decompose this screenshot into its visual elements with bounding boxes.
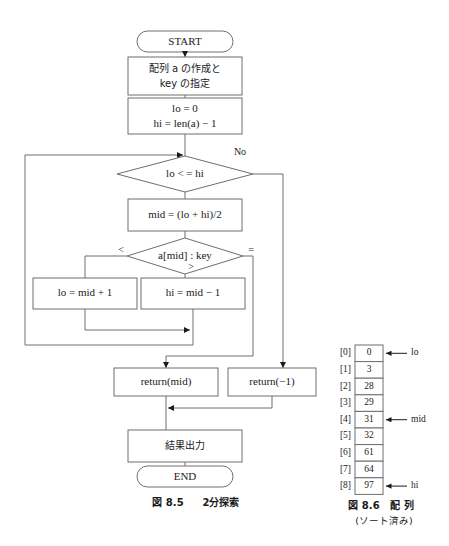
- branch-equal-label: =: [248, 244, 254, 255]
- branch-greater-label: >: [188, 261, 194, 272]
- array-cell-value: 61: [364, 447, 374, 457]
- bounds-line-2: hi = len(a) − 1: [153, 117, 216, 130]
- return-notfound-label: return(−1): [249, 375, 295, 388]
- array-cell-value: 64: [364, 464, 374, 474]
- flowchart-caption-title: 2分探索: [203, 496, 240, 508]
- array-cell-value: 3: [367, 364, 372, 374]
- array-cell-value: 28: [364, 381, 374, 391]
- array-table: [0]0[1]3[2]28[3]29[4]31[5]32[6]61[7]64[8…: [340, 345, 426, 494]
- return-found-label: return(mid): [141, 375, 192, 388]
- init-line-1: 配列 a の作成と: [149, 62, 222, 74]
- connector-returns-merge: [168, 396, 272, 408]
- array-index-label: [0]: [340, 347, 351, 357]
- output-label: 結果出力: [165, 439, 205, 451]
- array-cell-value: 29: [364, 397, 374, 407]
- connector-less-branch: [85, 256, 127, 278]
- array-cell-value: 31: [364, 414, 374, 424]
- array-pointer-label: mid: [411, 414, 426, 424]
- array-index-label: [6]: [340, 447, 351, 457]
- start-label: START: [168, 35, 202, 47]
- array-cell-value: 97: [364, 480, 374, 490]
- array-index-label: [8]: [340, 480, 351, 490]
- array-index-label: [4]: [340, 414, 351, 424]
- flowchart-caption-label: 図 8.5: [152, 497, 183, 508]
- array-pointer-label: hi: [411, 480, 419, 490]
- bounds-line-1: lo = 0: [172, 102, 198, 114]
- connector-lo-merge: [85, 309, 190, 330]
- compare-label: a[mid] : key: [158, 249, 212, 261]
- array-index-label: [5]: [340, 430, 351, 440]
- loop-no-label: No: [234, 146, 246, 157]
- figure-root: START 配列 a の作成と key の指定 lo = 0 hi = len(…: [0, 0, 449, 546]
- array-index-label: [7]: [340, 464, 351, 474]
- array-caption-label: 図 8.6: [348, 500, 379, 511]
- hi-update-label: hi = mid − 1: [166, 286, 221, 298]
- lo-update-label: lo = mid + 1: [58, 286, 113, 298]
- init-line-2: key の指定: [160, 77, 211, 89]
- binary-search-flowchart: START 配列 a の作成と key の指定 lo = 0 hi = len(…: [0, 0, 449, 546]
- branch-less-label: <: [118, 244, 124, 255]
- array-index-label: [2]: [340, 381, 351, 391]
- loop-condition-label: lo < = hi: [166, 167, 204, 179]
- array-caption-sub: (ソート済み): [355, 515, 412, 526]
- mid-assign-label: mid = (lo + hi)/2: [148, 208, 222, 221]
- array-cell-value: 32: [364, 430, 374, 440]
- connector-no-branch: [253, 174, 283, 368]
- array-cell-value: 0: [367, 347, 372, 357]
- array-index-label: [3]: [340, 397, 351, 407]
- connector-equal-branch: [166, 256, 253, 368]
- array-index-label: [1]: [340, 364, 351, 374]
- array-caption-title: 配 列: [390, 499, 413, 511]
- end-label: END: [174, 470, 197, 482]
- array-pointer-label: lo: [411, 347, 419, 357]
